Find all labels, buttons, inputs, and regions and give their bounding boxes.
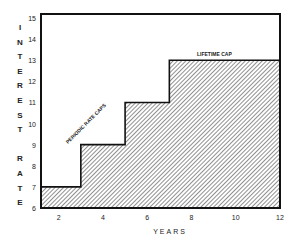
x-tick-label: 10 xyxy=(232,214,240,221)
y-axis-label: INTERESTRATE xyxy=(17,23,23,207)
y-tick-label: 6 xyxy=(32,205,36,212)
y-tick-label: 7 xyxy=(32,184,36,191)
y-axis-letter: R xyxy=(17,81,23,90)
interest-rate-chart: INTERESTRATE 6789101112131415 24681012 P… xyxy=(0,0,296,245)
x-axis-label: YEARS xyxy=(153,228,187,235)
y-tick-label: 11 xyxy=(29,99,36,106)
y-axis-letter: N xyxy=(17,38,23,47)
y-tick-label: 12 xyxy=(28,78,36,85)
y-axis-letter: T xyxy=(18,184,23,193)
x-tick-label: 6 xyxy=(145,214,149,221)
y-tick-label: 10 xyxy=(28,121,36,128)
x-axis-ticks: 24681012 xyxy=(57,214,284,221)
y-axis-letter: S xyxy=(17,111,23,120)
y-axis-letter: E xyxy=(17,198,23,207)
y-axis-letter: R xyxy=(17,154,23,163)
x-tick-label: 12 xyxy=(276,214,284,221)
y-axis-letter: T xyxy=(18,125,23,134)
y-tick-label: 15 xyxy=(28,15,36,22)
y-axis-letter: E xyxy=(17,96,23,105)
lifetime-cap-annotation: LIFETIME CAP xyxy=(197,51,232,57)
y-tick-label: 14 xyxy=(28,36,36,43)
y-tick-label: 13 xyxy=(28,57,36,64)
y-axis-letter: T xyxy=(18,52,23,61)
y-axis-letter: E xyxy=(17,67,23,76)
y-axis-ticks: 6789101112131415 xyxy=(28,15,36,212)
x-tick-label: 8 xyxy=(190,214,194,221)
y-tick-label: 8 xyxy=(32,163,36,170)
y-axis-letter: I xyxy=(19,23,21,32)
x-tick-label: 4 xyxy=(101,214,105,221)
y-axis-letter: A xyxy=(17,169,23,178)
periodic-rate-caps-annotation: PERIODIC RATE CAPS xyxy=(64,102,107,145)
y-tick-label: 9 xyxy=(32,142,36,149)
x-tick-label: 2 xyxy=(57,214,61,221)
